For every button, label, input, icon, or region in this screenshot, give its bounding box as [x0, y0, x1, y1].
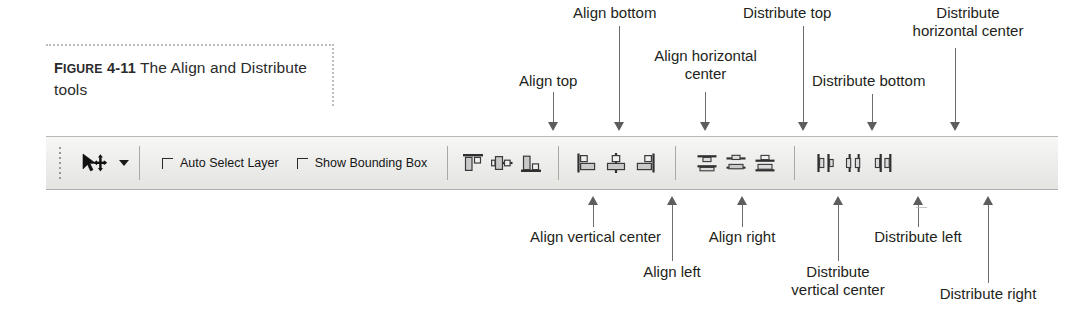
- checkbox-box-icon: [162, 158, 173, 169]
- distribute-right-icon: [871, 151, 895, 175]
- toolbar-separator: [558, 146, 559, 180]
- align-left-icon: [575, 151, 599, 175]
- leader-arrow-distribute-bottom: [867, 122, 877, 131]
- toolbar-separator: [675, 146, 676, 180]
- show-bounding-box-checkbox[interactable]: Show Bounding Box: [297, 156, 428, 170]
- move-tool-group: [78, 147, 129, 179]
- distribute-top-icon: [695, 151, 719, 175]
- callout-align-top: Align top: [519, 72, 577, 90]
- figure-number-label: FIGURE 4-11: [54, 60, 136, 76]
- distribute-vertical-center-icon: [724, 151, 748, 175]
- callout-align-vertical-center: Align vertical center: [453, 228, 661, 246]
- distribute-left-icon: [813, 151, 837, 175]
- leader-arrow-distribute-right: [983, 196, 993, 205]
- toolbar-grip[interactable]: [52, 144, 68, 182]
- leader-align-bottom: [619, 26, 620, 124]
- callout-distribute-vertical-center: Distribute vertical center: [768, 263, 908, 300]
- align-bottom-button[interactable]: [517, 148, 544, 178]
- figure-caption-box: FIGURE 4-11 The Align and Distribute too…: [46, 44, 334, 106]
- leader-arrow-align-horizontal-center: [700, 122, 710, 131]
- distribute-top-button[interactable]: [693, 148, 720, 178]
- leader-arrow-align-right: [737, 196, 747, 205]
- leader-arrow-distribute-top: [798, 122, 808, 131]
- align-horizontal-center-icon: [604, 151, 628, 175]
- figure-page: FIGURE 4-11 The Align and Distribute too…: [0, 0, 1082, 327]
- leader-arrow-distribute-horizontal-center: [950, 122, 960, 131]
- leader-distribute-right: [988, 205, 989, 283]
- align-top-icon: [461, 151, 485, 175]
- move-tool-button[interactable]: [78, 147, 112, 179]
- leader-align-vertical-center: [593, 205, 594, 227]
- callout-distribute-horizontal-center: Distribute horizontal center: [893, 4, 1043, 41]
- callout-align-horizontal-center: Align horizontal center: [637, 47, 774, 84]
- align-vertical-center-button[interactable]: [488, 148, 515, 178]
- toolbar-separator: [794, 146, 795, 180]
- leader-distribute-bottom: [872, 94, 873, 124]
- align-vertical-group: [458, 148, 545, 178]
- distribute-right-button[interactable]: [869, 148, 896, 178]
- distribute-bottom-button[interactable]: [751, 148, 778, 178]
- distribute-vertical-center-button[interactable]: [722, 148, 749, 178]
- distribute-horizontal-center-icon: [842, 151, 866, 175]
- show-bounding-box-label: Show Bounding Box: [315, 156, 428, 170]
- distribute-bottom-icon: [753, 151, 777, 175]
- align-vertical-center-icon: [490, 151, 514, 175]
- callout-distribute-left: Distribute left: [848, 228, 988, 246]
- leader-align-horizontal-center: [705, 92, 706, 124]
- photoshop-options-toolbar: Auto Select Layer Show Bounding Box: [46, 136, 1058, 190]
- leader-distribute-vertical-center: [838, 205, 839, 261]
- callout-align-bottom: Align bottom: [573, 4, 656, 22]
- figure-caption-text: FIGURE 4-11 The Align and Distribute too…: [54, 57, 332, 101]
- figure-label-prefix: F: [54, 60, 63, 76]
- auto-select-layer-label: Auto Select Layer: [180, 156, 279, 170]
- distribute-horizontal-group: [810, 148, 897, 178]
- callout-distribute-right: Distribute right: [913, 285, 1063, 303]
- align-right-icon: [633, 151, 657, 175]
- align-horizontal-group: [572, 148, 659, 178]
- callout-distribute-bottom: Distribute bottom: [812, 72, 925, 90]
- align-bottom-icon: [519, 151, 543, 175]
- leader-distribute-horizontal-center: [955, 48, 956, 124]
- distribute-vertical-group: [692, 148, 779, 178]
- distribute-left-button[interactable]: [811, 148, 838, 178]
- auto-select-layer-checkbox[interactable]: Auto Select Layer: [162, 156, 279, 170]
- toolbar-separator: [447, 146, 448, 180]
- leader-arrow-align-vertical-center: [588, 196, 598, 205]
- leader-distribute-top: [803, 26, 804, 124]
- align-left-button[interactable]: [573, 148, 600, 178]
- align-horizontal-center-button[interactable]: [602, 148, 629, 178]
- tool-preset-dropdown-arrow[interactable]: [119, 160, 129, 166]
- checkbox-box-icon: [297, 158, 308, 169]
- leader-arrow-distribute-vertical-center: [833, 196, 843, 205]
- figure-label-small: IGURE: [63, 62, 103, 76]
- distribute-horizontal-center-button[interactable]: [840, 148, 867, 178]
- align-top-button[interactable]: [459, 148, 486, 178]
- move-tool-icon: [80, 152, 110, 174]
- leader-align-left: [672, 205, 673, 261]
- toolbar-separator: [139, 146, 140, 180]
- scan-artifact: —: [916, 204, 930, 209]
- leader-arrow-align-top: [548, 122, 558, 131]
- callout-distribute-top: Distribute top: [743, 4, 831, 22]
- callout-align-right: Align right: [682, 228, 802, 246]
- leader-align-top: [553, 92, 554, 124]
- leader-arrow-align-left: [667, 196, 677, 205]
- figure-label-number: 4-11: [103, 60, 136, 76]
- align-right-button[interactable]: [631, 148, 658, 178]
- callout-align-left: Align left: [612, 263, 732, 281]
- leader-arrow-align-bottom: [614, 122, 624, 131]
- leader-align-right: [742, 205, 743, 227]
